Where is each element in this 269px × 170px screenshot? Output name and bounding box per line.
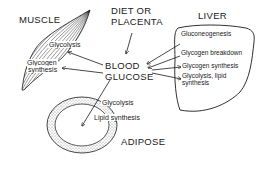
source-label-line2: PLACENTA: [111, 17, 163, 27]
muscle-process-synthesis: synthesis: [27, 66, 58, 73]
liver-process-gluconeogenesis: Gluconeogenesis: [181, 31, 231, 38]
liver-process-glycogen-synthesis: Glycogen synthesis: [182, 63, 238, 70]
adipose-process-glycolysis: Glycolysis: [101, 99, 135, 106]
liver-process-synthesis: synthesis: [182, 80, 209, 87]
liver-process-glycogen-breakdown: Glycogen breakdown: [181, 50, 242, 57]
adipose-label: ADIPOSE: [121, 137, 165, 147]
glucose-metabolism-diagram: MUSCLE Glycolysis Glycogen synthesis DIE…: [0, 0, 269, 170]
blood-glucose-line2: GLUCOSE: [105, 72, 154, 82]
muscle-process-glycolysis: Glycolysis: [48, 41, 82, 48]
muscle-process-glycogen: Glycogen: [26, 59, 58, 66]
liver-label: LIVER: [198, 11, 227, 21]
blood-glucose-line1: BLOOD: [105, 61, 140, 71]
source-label-line1: DIET OR: [111, 6, 151, 16]
adipose-process-lipid-synthesis: Lipid synthesis: [93, 114, 141, 121]
muscle-label: MUSCLE: [19, 15, 60, 25]
